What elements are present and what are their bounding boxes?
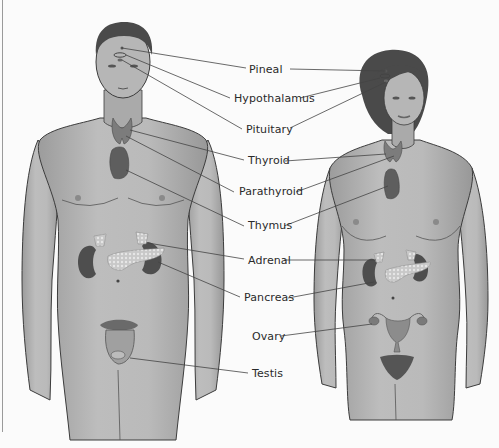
female-torso — [329, 140, 472, 420]
female-adrenal-right — [406, 250, 416, 260]
female-adrenal-left — [374, 252, 384, 262]
male-pituitary — [118, 59, 123, 62]
female-ovary-right — [417, 317, 427, 325]
male-figure — [22, 22, 224, 440]
label-thymus: Thymus — [248, 219, 292, 232]
label-pancreas: Pancreas — [244, 291, 294, 304]
label-pineal: Pineal — [249, 63, 283, 76]
label-thyroid: Thyroid — [248, 154, 290, 167]
female-pituitary — [384, 80, 388, 83]
male-adrenal-right — [136, 232, 148, 244]
label-hypothalamus: Hypothalamus — [234, 92, 315, 105]
label-ovary: Ovary — [252, 330, 285, 343]
male-thymus — [110, 147, 129, 179]
male-adrenal-left — [94, 234, 106, 246]
label-pituitary: Pituitary — [246, 123, 293, 136]
female-figure — [314, 50, 488, 448]
label-parathyroid: Parathyroid — [239, 185, 303, 198]
label-testis: Testis — [252, 367, 283, 380]
label-adrenal: Adrenal — [248, 254, 291, 267]
endocrine-diagram: Pineal Hypothalamus Pituitary Thyroid Pa… — [0, 0, 499, 448]
female-thymus — [384, 169, 399, 199]
